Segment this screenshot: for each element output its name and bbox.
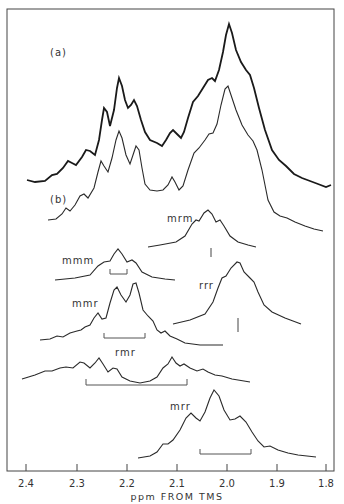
label-mmr: mmr	[72, 298, 99, 309]
x-axis-ticks	[26, 464, 326, 471]
tick-label: 2.1	[169, 478, 185, 489]
spectrum-rrr	[173, 262, 301, 324]
label-mrm: mrm	[167, 213, 193, 224]
label-mmm: mmm	[62, 255, 94, 266]
tick-label: 2.3	[69, 478, 85, 489]
tick-label: 2.0	[219, 478, 235, 489]
nmr-spectrum-chart: 2.4 2.3 2.2 2.1 2.0 1.9 1.8 ppm FROM TMS…	[0, 0, 344, 504]
x-axis-tick-labels: 2.4 2.3 2.2 2.1 2.0 1.9 1.8	[18, 478, 334, 489]
label-rmr: rmr	[115, 347, 136, 358]
spectrum-rmr	[22, 357, 250, 383]
mrr-bracket	[200, 449, 251, 454]
mmm-bracket	[110, 269, 127, 274]
tick-label: 1.9	[269, 478, 285, 489]
tick-label: 1.8	[318, 478, 334, 489]
label-mrr: mrr	[170, 401, 191, 412]
tick-label: 2.4	[18, 478, 34, 489]
spectrum-mrr	[138, 390, 316, 458]
label-b: (b)	[50, 194, 67, 205]
tick-label: 2.2	[119, 478, 135, 489]
spectrum-mmr	[40, 283, 223, 345]
mmr-bracket	[104, 333, 145, 338]
x-axis-label: ppm FROM TMS	[130, 491, 223, 502]
spectrum-a	[27, 24, 331, 187]
label-rrr: rrr	[199, 280, 214, 291]
label-a: (a)	[50, 47, 67, 58]
spectrum-mrm	[148, 210, 256, 247]
spectrum-b	[48, 86, 323, 231]
